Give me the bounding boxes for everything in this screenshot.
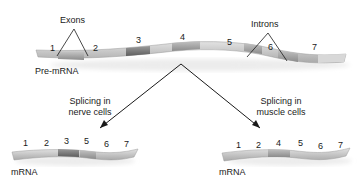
muscle-splicing-caption: Splicing in muscle cells	[250, 96, 312, 118]
muscle-segment-5: 5	[298, 138, 303, 148]
muscle-mrna-strand	[222, 148, 352, 166]
pre-mrna-segment-5: 5	[227, 37, 232, 47]
nerve-splicing-caption: Splicing in nerve cells	[60, 96, 120, 118]
nerve-segment-1: 1	[23, 138, 28, 148]
alternative-splicing-diagram	[0, 0, 364, 185]
pre-mrna-label: Pre-mRNA	[35, 66, 79, 76]
nerve-segment-3: 3	[64, 136, 69, 146]
nerve-mrna-strand	[12, 149, 138, 166]
muscle-segment-4: 4	[276, 138, 281, 148]
branch-arrows	[100, 64, 260, 128]
pre-mrna-segment-1: 1	[50, 43, 55, 53]
nerve-segment-7: 7	[124, 139, 129, 149]
muscle-segment-1: 1	[236, 140, 241, 150]
nerve-segment-2: 2	[44, 138, 49, 148]
muscle-segment-6: 6	[318, 141, 323, 151]
introns-callout-label: Introns	[251, 19, 279, 29]
pre-mrna-strand	[36, 41, 350, 71]
muscle-segment-7: 7	[338, 140, 343, 150]
pre-mrna-segment-6: 6	[268, 42, 273, 52]
nerve-segment-6: 6	[104, 139, 109, 149]
nerve-mrna-label: mRNA	[11, 167, 38, 177]
pre-mrna-segment-7: 7	[312, 42, 317, 52]
pre-mrna-segment-2: 2	[93, 43, 98, 53]
muscle-segment-2: 2	[256, 140, 261, 150]
muscle-mrna-label: mRNA	[219, 167, 246, 177]
exons-callout-label: Exons	[60, 15, 85, 25]
nerve-segment-5: 5	[84, 136, 89, 146]
pre-mrna-segment-3: 3	[136, 35, 141, 45]
arrowhead-left	[100, 120, 108, 128]
pre-mrna-segment-4: 4	[180, 32, 185, 42]
arrowhead-right	[252, 120, 260, 128]
